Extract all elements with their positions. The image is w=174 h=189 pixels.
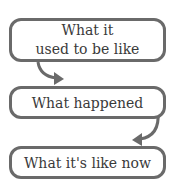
arrow-1	[38, 62, 56, 78]
step-past-line2: used to be like	[36, 40, 140, 59]
arrow-1-head	[54, 72, 64, 85]
step-box-past: What it used to be like	[9, 18, 166, 62]
step-box-present: What it's like now	[9, 146, 166, 179]
step-box-event: What happened	[9, 86, 166, 119]
step-past-line1: What it	[36, 21, 140, 40]
arrow-2-head	[132, 133, 142, 146]
step-event-label: What happened	[32, 95, 144, 111]
step-present-label: What it's like now	[24, 155, 151, 171]
